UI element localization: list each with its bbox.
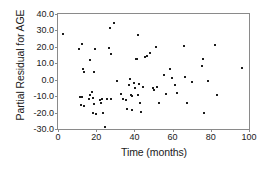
- data-point: [214, 44, 216, 46]
- y-axis-tick: [55, 80, 58, 81]
- data-point: [207, 80, 209, 82]
- data-point: [109, 27, 111, 29]
- data-point: [83, 105, 85, 107]
- data-point: [88, 98, 90, 100]
- y-axis-tick-label: 30.0: [36, 26, 54, 35]
- x-axis-tick-label: 100: [241, 133, 256, 142]
- data-point: [116, 80, 118, 82]
- data-point: [176, 92, 178, 94]
- data-point: [113, 22, 115, 24]
- data-point: [92, 112, 94, 114]
- data-point: [101, 98, 103, 100]
- data-point: [156, 86, 158, 88]
- data-point: [165, 93, 167, 95]
- data-point: [82, 68, 84, 70]
- data-point: [93, 71, 95, 73]
- data-point: [91, 91, 93, 93]
- y-axis-tick-label: -20.0: [33, 108, 54, 117]
- x-axis-title: Time (months): [57, 146, 251, 158]
- data-point: [216, 94, 218, 96]
- data-point: [126, 108, 128, 110]
- y-axis-tick-label: 0.0: [41, 75, 54, 84]
- y-axis-tick-label: 40.0: [36, 10, 54, 19]
- y-axis-tick-label: 10.0: [36, 59, 54, 68]
- data-point: [138, 83, 140, 85]
- y-axis-tick: [55, 47, 58, 48]
- data-point: [163, 74, 165, 76]
- x-axis-tick-label: 80: [206, 133, 216, 142]
- data-point: [106, 98, 108, 100]
- data-point: [155, 46, 157, 48]
- data-point: [149, 52, 151, 54]
- data-point: [134, 87, 136, 89]
- data-point: [89, 94, 91, 96]
- y-axis-tick: [55, 113, 58, 114]
- data-point: [171, 77, 173, 79]
- data-point: [110, 53, 112, 55]
- y-axis-tick: [55, 63, 58, 64]
- data-point: [191, 81, 193, 83]
- data-point: [201, 65, 203, 67]
- data-point: [174, 84, 176, 86]
- data-point: [158, 102, 160, 104]
- y-axis-tick-label: -10.0: [33, 92, 54, 101]
- data-point-layer: [58, 14, 249, 129]
- data-point: [120, 93, 122, 95]
- data-point: [202, 58, 204, 60]
- data-point: [125, 99, 127, 101]
- data-point: [136, 58, 138, 60]
- data-point: [102, 112, 104, 114]
- scatter-plot-figure: Partial Residual for AGE 40.030.020.010.…: [0, 0, 271, 169]
- data-point: [139, 102, 141, 104]
- data-point: [129, 78, 131, 80]
- y-axis-title: Partial Residual for AGE: [13, 0, 27, 130]
- data-point: [92, 97, 94, 99]
- data-point: [146, 55, 148, 57]
- x-axis-tick-label: 0: [55, 133, 60, 142]
- y-axis-tick: [55, 14, 58, 15]
- data-point: [153, 89, 155, 91]
- data-point: [62, 33, 64, 35]
- data-point: [137, 34, 139, 36]
- y-axis-tick: [55, 96, 58, 97]
- x-axis-tick-label: 40: [129, 133, 139, 142]
- data-point: [122, 98, 124, 100]
- data-point: [137, 94, 139, 96]
- data-point: [78, 48, 80, 50]
- plot-area: 40.030.020.010.00.0-10.0-20.0-30.0020406…: [57, 13, 250, 130]
- data-point: [83, 71, 85, 73]
- data-point: [131, 109, 133, 111]
- data-point: [186, 102, 188, 104]
- data-point: [94, 48, 96, 50]
- data-point: [108, 47, 110, 49]
- data-point: [128, 84, 130, 86]
- data-point: [184, 76, 186, 78]
- y-axis-tick-label: -30.0: [33, 125, 54, 134]
- data-point: [133, 82, 135, 84]
- data-point: [81, 96, 83, 98]
- data-point: [140, 111, 142, 113]
- data-point: [110, 98, 112, 100]
- data-point: [131, 95, 133, 97]
- data-point: [241, 67, 243, 69]
- data-point: [104, 126, 106, 128]
- data-point: [169, 68, 171, 70]
- data-point: [81, 43, 83, 45]
- data-point: [203, 112, 205, 114]
- data-point: [100, 102, 102, 104]
- data-point: [89, 59, 91, 61]
- data-point: [142, 86, 144, 88]
- y-axis-tick-label: 20.0: [36, 42, 54, 51]
- x-axis-tick-label: 20: [91, 133, 101, 142]
- y-axis-tick: [55, 30, 58, 31]
- data-point: [95, 113, 97, 115]
- data-point: [183, 45, 185, 47]
- data-point: [93, 103, 95, 105]
- data-point: [80, 104, 82, 106]
- x-axis-tick-label: 60: [168, 133, 178, 142]
